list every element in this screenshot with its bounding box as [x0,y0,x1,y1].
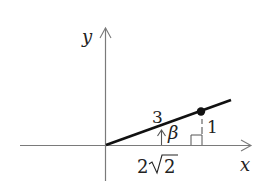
adjacent-label: 2 2 [137,155,178,177]
x-axis [20,140,251,151]
right-angle-marker [191,135,202,145]
opposite-label: 1 [207,117,218,137]
hypotenuse-label: 3 [152,107,163,127]
angle-label: β [167,122,178,143]
point-dot [197,107,205,115]
x-axis-label: x [240,154,250,175]
adjacent-radicand: 2 [164,156,175,177]
diagram-canvas: y x 3 β 1 2 2 [0,0,276,188]
adjacent-coefficient: 2 [137,156,148,177]
angle-arrow-icon [158,130,166,145]
y-axis-label: y [81,26,93,47]
y-axis [100,28,111,181]
